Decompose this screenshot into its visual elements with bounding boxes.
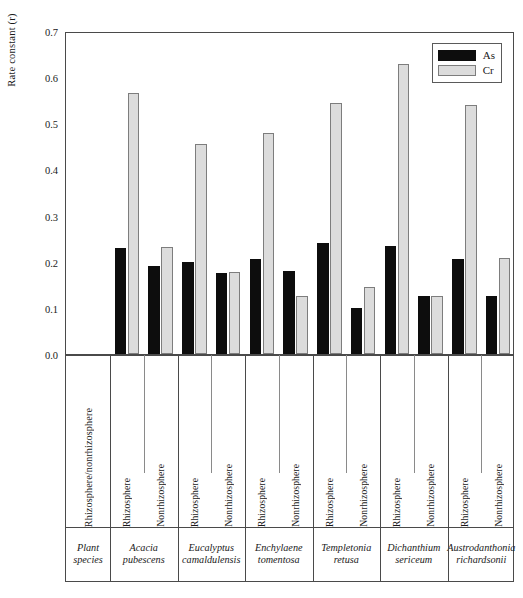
bar-as — [385, 246, 397, 354]
bar-cr — [465, 105, 477, 354]
legend-swatch-as-icon — [438, 50, 476, 61]
y-tick-label: 0.0 — [45, 350, 58, 361]
table-cell-fraction-label: Nonrhizosphere — [493, 458, 504, 527]
bar-as — [486, 296, 498, 354]
table-row-species: PlantspeciesAcaciapubescensEucalyptuscam… — [66, 527, 513, 581]
bar-as — [283, 271, 295, 354]
table-cell-fraction-label: Rhizosphere — [189, 472, 200, 527]
table-column-divider — [346, 355, 347, 473]
y-axis-title: Rate constant (r) — [6, 0, 17, 120]
table-cell-fraction-label: Rhizosphere — [324, 472, 335, 527]
table-cell-fraction: Rhizosphere — [448, 355, 482, 527]
table-cell-species: Enchylaenetomentosa — [245, 527, 313, 581]
table-column-divider — [313, 355, 314, 527]
y-tick-label: 0.1 — [45, 303, 58, 314]
table-column-divider — [178, 527, 179, 581]
table-cell-fraction-label: Rhizosphere — [391, 472, 402, 527]
bar-as — [452, 259, 464, 354]
table-column-divider — [380, 527, 381, 581]
table-cell-fraction: Nonrhizosphere — [211, 355, 245, 527]
y-tick-label: 0.3 — [45, 211, 58, 222]
bar-cr — [499, 258, 511, 354]
table-cell-fraction: Rhizosphere — [313, 355, 347, 527]
table-cell-species: Eucalyptuscamaldulensis — [178, 527, 246, 581]
table-cell-fraction: Nonrhizosphere — [481, 355, 515, 527]
y-tick-label: 0.6 — [45, 73, 58, 84]
bar-cr — [195, 144, 207, 354]
rate-constant-bar-chart: Rate constant (r) 0.70.60.50.40.30.20.10… — [0, 0, 523, 598]
species-name: Dichanthiumsericeum — [387, 542, 440, 567]
y-tick-label: 0.7 — [45, 27, 58, 38]
category-table: Rhizosphere/nonrhizosphereRhizosphereNon… — [65, 355, 514, 582]
y-tick-label: 0.5 — [45, 119, 58, 130]
y-axis-ticks: 0.70.60.50.40.30.20.10.0 — [18, 0, 58, 598]
table-cell-fraction: Rhizosphere — [110, 355, 144, 527]
bar-as — [182, 262, 194, 354]
table-column-divider — [414, 355, 415, 473]
table-cell-fraction-label: Rhizosphere — [121, 472, 132, 527]
bar-cr — [229, 272, 241, 354]
table-column-divider — [279, 355, 280, 473]
bar-cr — [296, 296, 308, 354]
bar-cr — [161, 247, 173, 354]
table-cell-fraction: Nonrhizosphere — [414, 355, 448, 527]
bar-as — [115, 248, 127, 354]
table-column-divider — [178, 355, 179, 527]
bar-cr — [330, 103, 342, 354]
table-column-divider — [144, 355, 145, 473]
table-row-header-species: Plantspecies — [66, 527, 110, 581]
species-name: Austrodanthoniarichardsonii — [447, 542, 515, 567]
plot-area: As Cr — [65, 32, 514, 355]
bar-as — [317, 243, 329, 354]
table-cell-fraction: Nonrhizosphere — [279, 355, 313, 527]
table-cell-fraction-label: Nonrhizosphere — [155, 458, 166, 527]
bar-cr — [431, 296, 443, 354]
table-cell-fraction-label: Nonrhizosphere — [290, 458, 301, 527]
y-tick-label: 0.4 — [45, 165, 58, 176]
bar-as — [250, 259, 262, 354]
bar-cr — [263, 133, 275, 354]
legend-swatch-cr-icon — [438, 65, 476, 76]
table-row-header-label: Rhizosphere/nonrhizosphere — [83, 402, 94, 527]
table-cell-fraction: Nonrhizosphere — [144, 355, 178, 527]
legend-label-cr: Cr — [483, 65, 494, 76]
table-cell-fraction-label: Nonrhizosphere — [358, 458, 369, 527]
species-name: Templetoniaretusa — [321, 542, 371, 567]
table-column-divider — [481, 355, 482, 473]
table-cell-species: Dichanthiumsericeum — [380, 527, 448, 581]
species-name: Plantspecies — [73, 542, 102, 567]
table-cell-species: Acaciapubescens — [110, 527, 178, 581]
table-column-divider — [448, 355, 449, 527]
table-cell-fraction-label: Nonrhizosphere — [425, 458, 436, 527]
legend-label-as: As — [483, 50, 495, 61]
table-cell-fraction: Nonrhizosphere — [346, 355, 380, 527]
table-row-fractions: Rhizosphere/nonrhizosphereRhizosphereNon… — [66, 355, 513, 527]
bar-as — [216, 273, 228, 354]
bar-as — [148, 266, 160, 354]
table-row-header-fractions: Rhizosphere/nonrhizosphere — [66, 355, 110, 527]
table-column-divider — [245, 355, 246, 527]
bar-cr — [128, 93, 140, 354]
table-cell-species: Austrodanthoniarichardsonii — [448, 527, 516, 581]
table-column-divider — [380, 355, 381, 527]
bar-cr — [398, 64, 410, 354]
legend-item-as: As — [438, 48, 495, 63]
table-cell-fraction: Rhizosphere — [245, 355, 279, 527]
legend: As Cr — [432, 43, 502, 83]
table-column-divider — [245, 527, 246, 581]
table-cell-fraction: Rhizosphere — [178, 355, 212, 527]
table-column-divider — [110, 527, 111, 581]
table-cell-fraction-label: Rhizosphere — [459, 472, 470, 527]
table-column-divider — [313, 527, 314, 581]
species-name: Acaciapubescens — [123, 542, 165, 567]
species-name: Eucalyptuscamaldulensis — [182, 542, 240, 567]
legend-item-cr: Cr — [438, 63, 495, 78]
bar-as — [351, 308, 363, 354]
table-cell-fraction: Rhizosphere — [380, 355, 414, 527]
species-name: Enchylaenetomentosa — [255, 542, 303, 567]
y-tick-label: 0.2 — [45, 257, 58, 268]
table-cell-species: Templetoniaretusa — [313, 527, 381, 581]
table-cell-fraction-label: Rhizosphere — [256, 472, 267, 527]
table-cell-fraction-label: Nonrhizosphere — [223, 458, 234, 527]
table-column-divider — [448, 527, 449, 581]
